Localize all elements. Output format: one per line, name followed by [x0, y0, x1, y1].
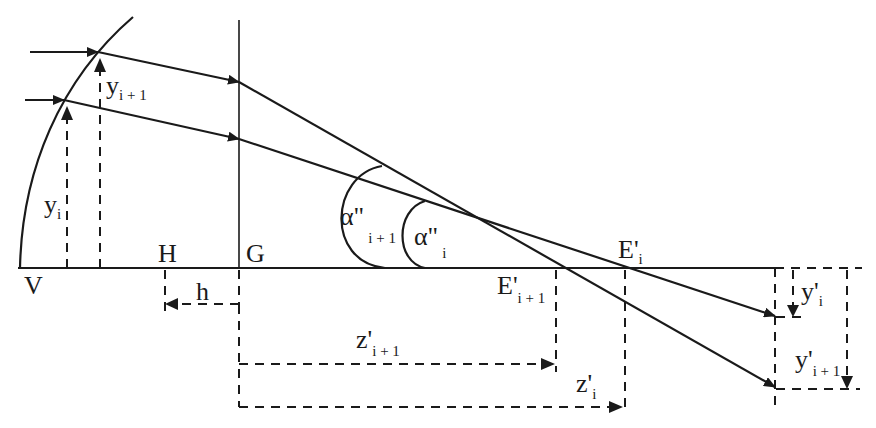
arrowhead-yi1: [94, 58, 106, 72]
label-e-i: E'i: [618, 235, 643, 267]
label-z-i: z'i: [576, 369, 596, 402]
ray-lower-segment: [64, 100, 239, 139]
refracting-surface-curve: [20, 17, 133, 268]
label-yp-i: y'i: [801, 277, 823, 309]
label-v: V: [24, 271, 43, 300]
ray-upper-segment: [98, 52, 239, 82]
arrowhead-z-i: [609, 401, 623, 413]
label-yp-i1: y'i + 1: [795, 345, 840, 379]
label-alpha-i1: α"i + 1: [340, 202, 396, 246]
arrowhead-h: [165, 298, 178, 310]
label-z-i1: z'i + 1: [356, 325, 400, 359]
ray-upper-outgoing: [239, 82, 775, 387]
arrowhead-yi: [61, 106, 73, 120]
label-e-i1: E'i + 1: [497, 271, 545, 306]
arrowhead-yp-i1: [841, 376, 853, 389]
arrowhead-z-i1: [541, 358, 555, 370]
label-alpha-i: α"i: [414, 222, 446, 261]
label-g: G: [246, 239, 265, 268]
label-h-distance: h: [196, 277, 209, 306]
label-y-i1: yi + 1: [106, 71, 147, 103]
arrowhead-yp-i: [787, 305, 799, 317]
ray-diagram: V H G h yi yi + 1 α"i + 1 α"i E'i E'i + …: [0, 0, 876, 428]
label-h-point: H: [158, 239, 177, 268]
label-y-i: yi: [44, 190, 61, 222]
